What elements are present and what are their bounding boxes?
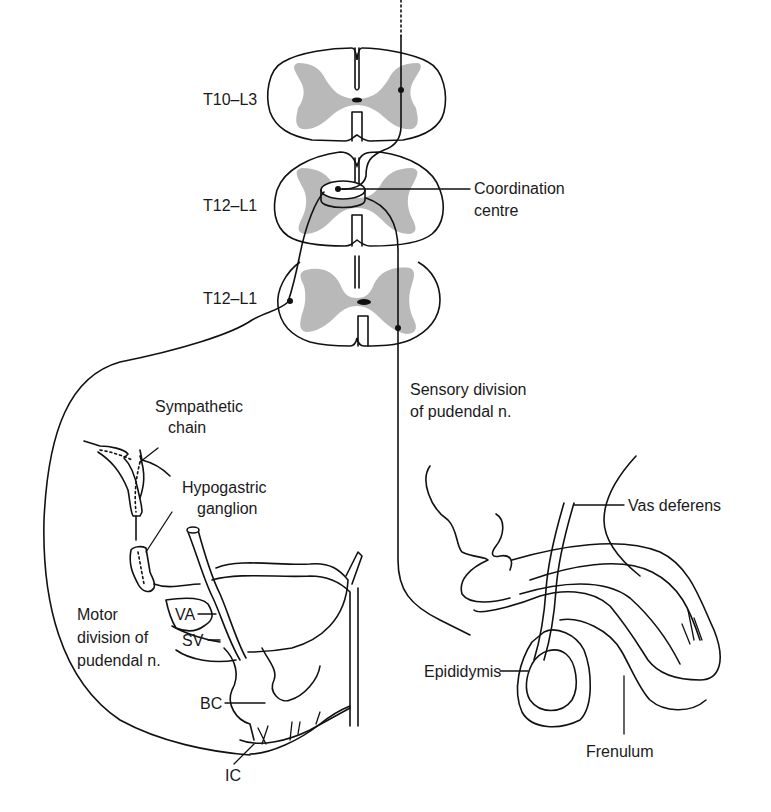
vas-deferens-label: Vas deferens [628, 497, 721, 514]
spinal-segment-t12-l1-upper: T12–L1 [203, 152, 443, 246]
hypogastric-ganglion-label: Hypogastric [182, 479, 266, 496]
sympathetic-chain-pointer [140, 448, 158, 462]
coordination-centre-label: Coordination [474, 180, 565, 197]
epididymis-label: Epididymis [424, 663, 501, 680]
coordination-centre-label-2: centre [474, 202, 519, 219]
hypogastric-ganglion [130, 547, 200, 592]
sensory-division-label-2: of pudendal n. [410, 403, 511, 420]
segment-label-t12-l1-upper: T12–L1 [203, 197, 257, 214]
bc-label: BC [200, 695, 222, 712]
sympathetic-chain-label-2: chain [168, 419, 206, 436]
sympathetic-chain [84, 441, 170, 540]
sympathetic-chain-label: Sympathetic [155, 398, 243, 415]
hypogastric-ganglion-pointer [146, 512, 172, 552]
ejaculation-pathway-diagram: T10–L3 T12–L1 T12–L1 [0, 0, 771, 812]
va-label: VA [175, 606, 195, 623]
ic-label: IC [225, 767, 241, 784]
segment-label-t12-l1-lower: T12–L1 [203, 290, 257, 307]
segment-label-t10-l3: T10–L3 [203, 91, 257, 108]
sensory-division-label: Sensory division [410, 381, 527, 398]
motor-division-label-2: division of [77, 629, 149, 646]
spinal-segment-t10-l3: T10–L3 [203, 48, 445, 141]
hypogastric-ganglion-label-2: ganglion [197, 500, 258, 517]
sv-label: SV [182, 632, 204, 649]
spinal-segment-t12-l1-lower: T12–L1 [203, 256, 440, 346]
motor-division-label-3: pudendal n. [77, 652, 161, 669]
motor-division-label: Motor [77, 606, 119, 623]
frenulum-label: Frenulum [586, 743, 654, 760]
